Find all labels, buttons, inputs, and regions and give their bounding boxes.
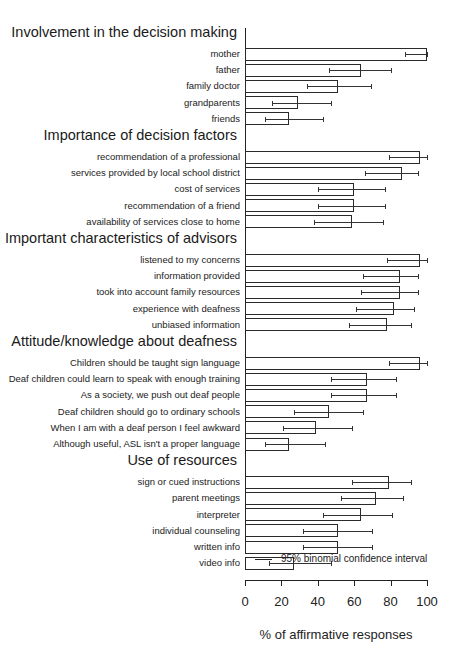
section-title: Involvement in the decision making: [11, 24, 237, 40]
row-label: written info: [194, 541, 240, 553]
row-label: video info: [199, 557, 240, 569]
confidence-interval-cap: [371, 84, 372, 89]
confidence-interval-cap: [265, 442, 266, 447]
x-tick-label: 40: [311, 594, 325, 609]
section-title: Use of resources: [127, 452, 237, 468]
confidence-interval: [331, 395, 397, 396]
confidence-interval: [389, 363, 427, 364]
x-tick: [318, 580, 319, 586]
confidence-interval-cap: [387, 258, 388, 263]
x-tick-label: 100: [416, 594, 438, 609]
row-label: mother: [210, 48, 240, 60]
confidence-interval: [352, 482, 410, 483]
confidence-interval-cap: [396, 393, 397, 398]
x-tick: [354, 580, 355, 586]
confidence-interval-cap: [318, 187, 319, 192]
confidence-interval: [389, 157, 427, 158]
confidence-interval: [341, 498, 403, 499]
row-label: parent meetings: [172, 492, 240, 504]
row-label: When I am with a deaf person I feel awkw…: [50, 422, 240, 434]
confidence-interval-cap: [396, 377, 397, 382]
chart: Involvement in the decision makingmother…: [0, 0, 462, 650]
x-tick: [391, 580, 392, 586]
x-tick-label: 60: [347, 594, 361, 609]
legend-label: 95% binomial confidence interval: [281, 553, 427, 564]
confidence-interval-cap: [385, 204, 386, 209]
row-label: interpreter: [197, 509, 240, 521]
confidence-interval-cap: [411, 480, 412, 485]
row-label: took into account family resources: [96, 286, 240, 298]
confidence-interval: [318, 189, 385, 190]
x-tick: [245, 580, 246, 586]
confidence-interval: [265, 444, 325, 445]
section-title: Important characteristics of advisors: [5, 230, 237, 246]
confidence-interval-cap: [323, 117, 324, 122]
confidence-interval-cap: [418, 274, 419, 279]
confidence-interval-cap: [341, 496, 342, 501]
x-tick: [281, 580, 282, 586]
row-label: listened to my concerns: [140, 254, 240, 266]
confidence-interval-cap: [323, 513, 324, 518]
x-tick-label: 0: [241, 594, 248, 609]
confidence-interval-cap: [427, 52, 428, 57]
confidence-interval-cap: [303, 529, 304, 534]
confidence-interval-cap: [383, 220, 384, 225]
confidence-interval-cap: [269, 561, 270, 566]
confidence-interval-cap: [361, 290, 362, 295]
row-label: grandparents: [184, 97, 240, 109]
confidence-interval-cap: [363, 274, 364, 279]
confidence-interval-cap: [391, 68, 392, 73]
x-tick-label: 80: [383, 594, 397, 609]
confidence-interval: [294, 412, 363, 413]
confidence-interval: [331, 379, 397, 380]
row-label: Although useful, ASL isn't a proper lang…: [53, 438, 240, 450]
confidence-interval-cap: [318, 204, 319, 209]
row-label: individual counseling: [152, 525, 240, 537]
confidence-interval-cap: [303, 545, 304, 550]
confidence-interval-cap: [372, 529, 373, 534]
confidence-interval: [349, 325, 411, 326]
confidence-interval-cap: [272, 101, 273, 106]
confidence-interval-cap: [427, 258, 428, 263]
confidence-interval: [361, 292, 417, 293]
confidence-interval-cap: [418, 171, 419, 176]
confidence-interval-cap: [352, 426, 353, 431]
confidence-interval: [307, 86, 371, 87]
confidence-interval: [318, 206, 385, 207]
confidence-interval-cap: [363, 410, 364, 415]
confidence-interval-cap: [294, 410, 295, 415]
confidence-interval-cap: [349, 323, 350, 328]
x-axis-label: % of affirmative responses: [260, 627, 413, 642]
row-label: Deaf children could learn to speak with …: [9, 373, 240, 385]
row-label: family doctor: [186, 80, 240, 92]
confidence-interval-cap: [352, 480, 353, 485]
row-label: Children should be taught sign language: [70, 357, 240, 369]
confidence-interval: [363, 276, 418, 277]
confidence-interval-cap: [331, 377, 332, 382]
x-axis-line: [245, 580, 427, 581]
confidence-interval-cap: [403, 496, 404, 501]
confidence-interval: [323, 515, 392, 516]
row-label: sign or cued instructions: [138, 476, 240, 488]
confidence-interval-cap: [325, 442, 326, 447]
row-label: father: [216, 64, 240, 76]
confidence-interval-cap: [365, 171, 366, 176]
confidence-interval-cap: [356, 307, 357, 312]
row-label: friends: [211, 113, 240, 125]
confidence-interval: [283, 428, 352, 429]
confidence-interval-cap: [405, 52, 406, 57]
confidence-interval-cap: [265, 117, 266, 122]
confidence-interval: [314, 222, 383, 223]
confidence-interval-cap: [411, 323, 412, 328]
confidence-interval-cap: [392, 513, 393, 518]
confidence-interval-cap: [331, 101, 332, 106]
section-title: Importance of decision factors: [44, 127, 237, 143]
legend-ci-line-icon: [255, 559, 272, 560]
confidence-interval-cap: [314, 220, 315, 225]
bar: [245, 48, 427, 61]
confidence-interval-cap: [389, 361, 390, 366]
confidence-interval-cap: [427, 155, 428, 160]
row-label: information provided: [154, 270, 240, 282]
confidence-interval-cap: [385, 187, 386, 192]
confidence-interval: [365, 173, 418, 174]
